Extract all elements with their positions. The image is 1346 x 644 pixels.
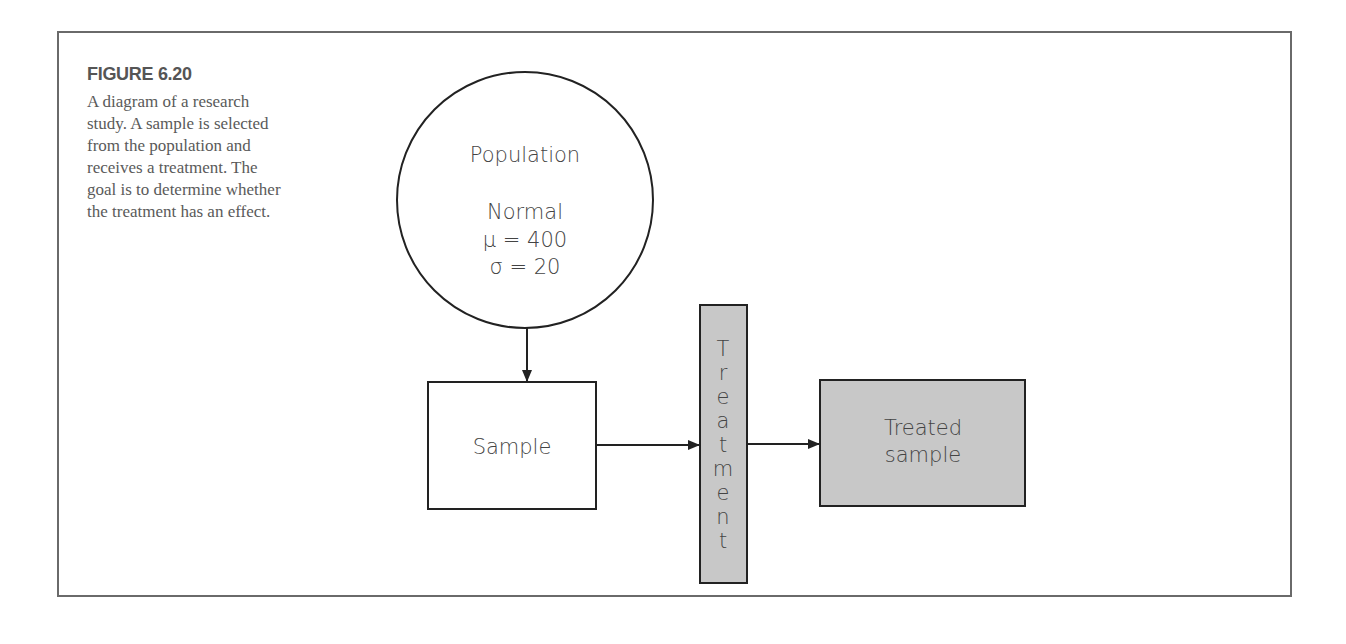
treatment-letter-5: t — [719, 433, 727, 457]
treatment-letter-6: m — [713, 457, 733, 481]
treatment-letter-3: e — [717, 385, 730, 409]
population-node: Population Normal μ = 400 σ = 20 — [397, 72, 653, 328]
treatment-letter-1: T — [717, 337, 730, 361]
treatment-node: T r e a t m e n t — [700, 305, 747, 583]
population-distribution: Normal — [487, 200, 563, 224]
treatment-letter-7: e — [717, 481, 730, 505]
treated-sample-label-line2: sample — [885, 443, 961, 467]
treated-sample-label-line1: Treated — [884, 416, 962, 440]
population-title: Population — [470, 143, 580, 167]
population-mean: μ = 400 — [483, 228, 567, 252]
treatment-letter-9: t — [719, 529, 727, 553]
sample-label: Sample — [473, 435, 552, 459]
treatment-letter-4: a — [717, 409, 730, 433]
treated-sample-node: Treated sample — [820, 380, 1025, 506]
research-study-diagram: Population Normal μ = 400 σ = 20 Sample … — [0, 0, 1346, 644]
population-sd: σ = 20 — [490, 255, 561, 279]
treatment-letter-8: n — [716, 505, 729, 529]
treatment-letter-2: r — [719, 361, 728, 385]
sample-node: Sample — [428, 382, 596, 509]
